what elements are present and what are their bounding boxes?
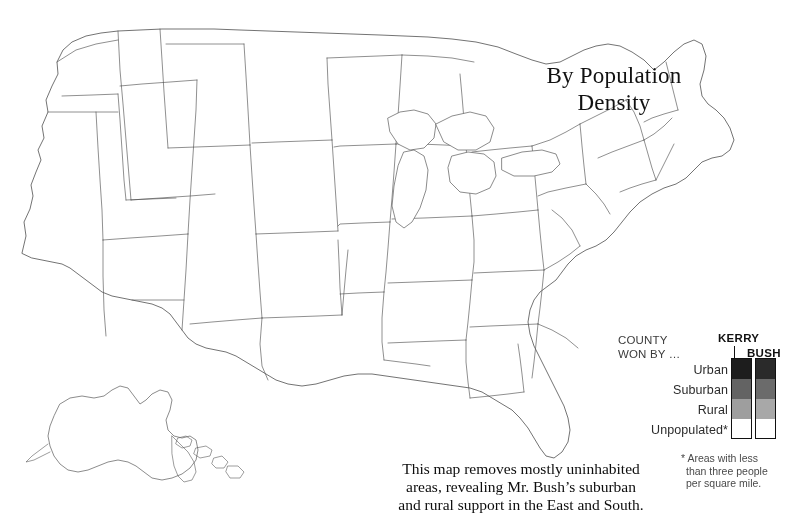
legend-row-labels: UrbanSuburbanRuralUnpopulated* bbox=[610, 360, 734, 440]
legend-county-label: COUNTY WON BY … bbox=[618, 334, 710, 361]
legend-footnote-line1: * Areas with less bbox=[686, 452, 798, 465]
legend-kerry-swatch-bar bbox=[731, 358, 752, 439]
legend-county-line1: COUNTY bbox=[618, 334, 710, 348]
legend-county-line2: WON BY … bbox=[618, 348, 710, 362]
legend-footnote-line3: per square mile. bbox=[686, 477, 798, 490]
legend-swatch bbox=[756, 399, 775, 419]
legend-swatch bbox=[732, 399, 751, 419]
legend-row-rural: Rural bbox=[610, 400, 734, 420]
legend-kerry-label: KERRY bbox=[718, 332, 759, 344]
map-legend: COUNTY WON BY … KERRY BUSH UrbanSuburban… bbox=[610, 330, 795, 450]
legend-swatch bbox=[756, 379, 775, 399]
map-caption: This map removes mostly uninhabited area… bbox=[378, 460, 664, 514]
map-title-line2: Density bbox=[506, 89, 722, 116]
map-caption-line3: and rural support in the East and South. bbox=[378, 496, 664, 514]
legend-swatch bbox=[732, 379, 751, 399]
legend-bush-swatch-bar bbox=[755, 358, 776, 439]
map-title-line1: By Population bbox=[547, 63, 682, 88]
legend-swatch bbox=[732, 359, 751, 379]
legend-footnote-line2: than three people bbox=[686, 465, 798, 478]
legend-swatch bbox=[756, 359, 775, 379]
legend-row-suburban: Suburban bbox=[610, 380, 734, 400]
map-title: By Population Density bbox=[506, 62, 722, 116]
legend-row-unpopulated: Unpopulated* bbox=[610, 420, 734, 440]
map-figure: By Population Density This map removes m… bbox=[0, 0, 804, 532]
map-caption-line1: This map removes mostly uninhabited bbox=[378, 460, 664, 478]
legend-row-urban: Urban bbox=[610, 360, 734, 380]
legend-footnote: * Areas with less than three people per … bbox=[686, 452, 798, 490]
legend-swatch bbox=[732, 419, 751, 438]
map-caption-line2: areas, revealing Mr. Bush’s suburban bbox=[378, 478, 664, 496]
legend-swatch bbox=[756, 419, 775, 438]
